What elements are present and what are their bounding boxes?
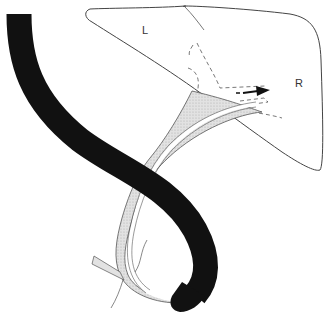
- bile-duct: [116, 91, 262, 303]
- branch-line-2: [135, 240, 147, 272]
- branch-line: [111, 280, 123, 308]
- liver-outline: [86, 6, 323, 170]
- diagram-svg: [0, 0, 334, 326]
- label-right-lobe: R: [295, 77, 303, 89]
- label-left-lobe: L: [142, 24, 148, 36]
- diagram-canvas: L R: [0, 0, 334, 326]
